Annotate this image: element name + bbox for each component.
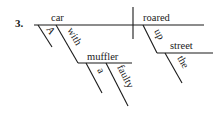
subject-word: car bbox=[51, 12, 64, 23]
sentence-diagram: 3. car roared A with muffler a faulty up… bbox=[0, 0, 224, 113]
adverb-preposition-word: up bbox=[152, 27, 167, 41]
article-subject-word: A bbox=[44, 24, 58, 37]
article-object-word: a bbox=[95, 66, 107, 76]
item-number: 3. bbox=[15, 17, 24, 29]
article-object-slant bbox=[86, 63, 102, 93]
preposition-word: with bbox=[65, 26, 84, 48]
verb-word: roared bbox=[143, 12, 171, 23]
article-adverb-object-word: the bbox=[175, 54, 191, 71]
adverb-object-word: street bbox=[170, 40, 193, 51]
prep-object-word: muffler bbox=[87, 51, 119, 62]
adverb-preposition-slant bbox=[143, 25, 157, 53]
